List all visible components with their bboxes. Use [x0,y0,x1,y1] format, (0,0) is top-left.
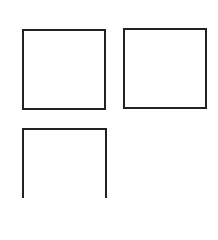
empty-square-box-top-left [22,29,106,110]
empty-square-box-bottom-left [22,128,107,198]
empty-square-box-top-right [123,28,207,109]
